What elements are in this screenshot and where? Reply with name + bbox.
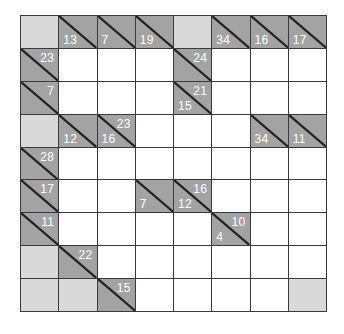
blank-cell: [21, 279, 58, 311]
clue-cell: 7: [21, 82, 58, 114]
down-clue-sum: 17: [293, 34, 307, 46]
entry-cell[interactable]: [136, 246, 173, 278]
entry-cell[interactable]: [251, 148, 288, 180]
down-clue-sum: 16: [102, 133, 116, 145]
entry-cell[interactable]: [174, 279, 211, 311]
entry-cell[interactable]: [289, 148, 326, 180]
across-clue-sum: 17: [40, 183, 54, 195]
clue-cell: 410: [212, 213, 249, 245]
down-clue-sum: 12: [178, 198, 192, 210]
entry-cell[interactable]: [59, 148, 96, 180]
entry-cell[interactable]: [59, 82, 96, 114]
entry-cell[interactable]: [136, 279, 173, 311]
down-clue-sum: 12: [63, 133, 77, 145]
across-clue-sum: 15: [117, 282, 131, 294]
down-clue-sum: 4: [216, 231, 223, 243]
blank-cell: [174, 16, 211, 48]
clue-cell: 22: [59, 246, 96, 278]
entry-cell[interactable]: [212, 115, 249, 147]
clue-cell: 15: [98, 279, 135, 311]
entry-cell[interactable]: [174, 213, 211, 245]
kakuro-board: 1371934161723247152112162334112817712161…: [20, 15, 327, 312]
across-clue-sum: 22: [79, 249, 93, 261]
entry-cell[interactable]: [212, 148, 249, 180]
clue-cell: 11: [289, 115, 326, 147]
clue-cell: 11: [21, 213, 58, 245]
down-clue-sum: 16: [255, 34, 269, 46]
entry-cell[interactable]: [59, 49, 96, 81]
down-clue-sum: 13: [63, 34, 77, 46]
entry-cell[interactable]: [251, 246, 288, 278]
entry-cell[interactable]: [174, 246, 211, 278]
clue-cell: 28: [21, 148, 58, 180]
entry-cell[interactable]: [212, 246, 249, 278]
across-clue-sum: 21: [193, 85, 207, 97]
clue-cell: 24: [174, 49, 211, 81]
entry-cell[interactable]: [59, 213, 96, 245]
across-clue-sum: 7: [47, 85, 54, 97]
entry-cell[interactable]: [289, 49, 326, 81]
down-clue-sum: 34: [216, 34, 230, 46]
down-clue-sum: 11: [293, 133, 306, 145]
entry-cell[interactable]: [98, 213, 135, 245]
entry-cell[interactable]: [174, 115, 211, 147]
across-clue-sum: 23: [40, 52, 54, 64]
entry-cell[interactable]: [98, 148, 135, 180]
clue-cell: 34: [212, 16, 249, 48]
blank-cell: [289, 279, 326, 311]
across-clue-sum: 10: [232, 216, 246, 228]
across-clue-sum: 23: [117, 118, 131, 130]
entry-cell[interactable]: [289, 213, 326, 245]
entry-cell[interactable]: [251, 82, 288, 114]
clue-cell: 1521: [174, 82, 211, 114]
blank-cell: [59, 279, 96, 311]
entry-cell[interactable]: [251, 49, 288, 81]
entry-cell[interactable]: [212, 180, 249, 212]
clue-cell: 17: [21, 180, 58, 212]
entry-cell[interactable]: [136, 49, 173, 81]
clue-cell: 13: [59, 16, 96, 48]
clue-cell: 34: [251, 115, 288, 147]
clue-cell: 23: [21, 49, 58, 81]
entry-cell[interactable]: [98, 82, 135, 114]
down-clue-sum: 7: [102, 34, 109, 46]
across-clue-sum: 24: [193, 52, 207, 64]
entry-cell[interactable]: [212, 82, 249, 114]
entry-cell[interactable]: [251, 279, 288, 311]
blank-cell: [21, 115, 58, 147]
entry-cell[interactable]: [289, 82, 326, 114]
down-clue-sum: 34: [255, 133, 269, 145]
entry-cell[interactable]: [289, 180, 326, 212]
down-clue-sum: 19: [140, 34, 154, 46]
down-clue-sum: 15: [178, 100, 192, 112]
entry-cell[interactable]: [98, 180, 135, 212]
clue-cell: 16: [251, 16, 288, 48]
clue-cell: 17: [289, 16, 326, 48]
across-clue-sum: 16: [193, 183, 207, 195]
clue-cell: 1623: [98, 115, 135, 147]
entry-cell[interactable]: [289, 246, 326, 278]
entry-cell[interactable]: [98, 246, 135, 278]
entry-cell[interactable]: [174, 148, 211, 180]
clue-cell: 12: [59, 115, 96, 147]
clue-cell: 7: [98, 16, 135, 48]
clue-cell: 7: [136, 180, 173, 212]
down-clue-sum: 7: [140, 198, 147, 210]
across-clue-sum: 28: [40, 151, 54, 163]
entry-cell[interactable]: [59, 180, 96, 212]
clue-cell: 1216: [174, 180, 211, 212]
entry-cell[interactable]: [136, 213, 173, 245]
entry-cell[interactable]: [251, 213, 288, 245]
entry-cell[interactable]: [251, 180, 288, 212]
across-clue-sum: 11: [41, 216, 54, 228]
clue-cell: 19: [136, 16, 173, 48]
entry-cell[interactable]: [136, 148, 173, 180]
blank-cell: [21, 16, 58, 48]
entry-cell[interactable]: [136, 115, 173, 147]
entry-cell[interactable]: [98, 49, 135, 81]
entry-cell[interactable]: [136, 82, 173, 114]
entry-cell[interactable]: [212, 49, 249, 81]
entry-cell[interactable]: [212, 279, 249, 311]
blank-cell: [21, 246, 58, 278]
